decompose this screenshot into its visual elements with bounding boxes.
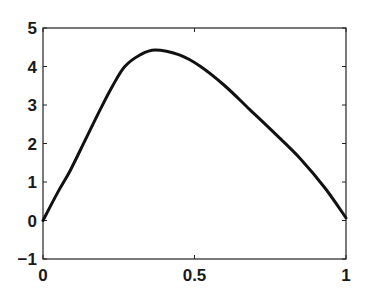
y-tick-label: 2	[28, 135, 37, 154]
data-series-curve	[43, 50, 346, 221]
y-tick-label: 5	[28, 19, 37, 38]
x-tick-label: 0.5	[183, 266, 207, 285]
y-tick-label: 3	[28, 96, 37, 115]
y-tick-label: −1	[18, 250, 37, 269]
x-tick-label: 1	[341, 266, 350, 285]
y-tick-label: 4	[28, 58, 38, 77]
y-tick-label: 0	[28, 212, 37, 231]
x-tick-label: 0	[38, 266, 47, 285]
x-axis-ticks: 00.51	[38, 28, 350, 285]
y-tick-label: 1	[28, 173, 37, 192]
line-chart: −1012345 00.51	[0, 0, 367, 302]
